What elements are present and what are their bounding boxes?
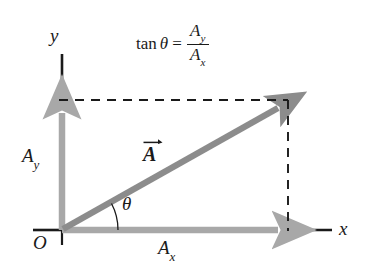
x-axis-label: x [339, 219, 347, 238]
component-y-label-sub: y [34, 157, 40, 172]
equation-equals-sign: = [172, 34, 182, 54]
equation-function-name: tan [136, 34, 157, 54]
equation-numerator: Ay [187, 22, 208, 43]
vector-overarrow-icon [143, 136, 156, 144]
y-axis-label: y [50, 26, 58, 45]
vector-a-arrow [63, 108, 278, 229]
component-x-label-base: A [158, 237, 170, 258]
equation-denominator-base: A [190, 45, 200, 64]
tangent-equation: tan θ = Ay Ax [136, 22, 209, 67]
component-x-label-sub: x [170, 249, 176, 264]
equation-numerator-sub: y [200, 32, 205, 44]
equation-denominator: Ax [187, 46, 208, 67]
origin-label: O [33, 233, 47, 252]
component-y-label-base: A [22, 145, 34, 166]
equation-denominator-sub: x [200, 56, 205, 68]
angle-theta-label: θ [122, 194, 131, 213]
vector-a-letter: A [143, 144, 156, 164]
component-x-label: Ax [158, 238, 175, 261]
equation-angle: θ [160, 34, 168, 54]
equation-numerator-base: A [190, 21, 200, 40]
angle-arc-theta [112, 204, 119, 231]
vector-a-label: A [143, 136, 156, 164]
component-y-label: Ay [22, 146, 39, 169]
equation-fraction: Ay Ax [187, 22, 209, 67]
vector-components-figure: y x O Ay Ax A θ tan θ = Ay Ax [0, 0, 371, 274]
